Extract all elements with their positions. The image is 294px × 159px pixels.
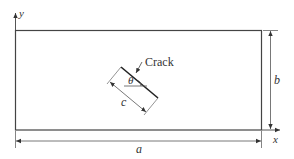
y-axis: y bbox=[16, 7, 25, 30]
dimension-a: a bbox=[16, 131, 262, 156]
y-axis-label: y bbox=[18, 7, 24, 19]
dimension-a-label: a bbox=[136, 142, 142, 156]
diagram-canvas: y x a b Crack θ c bbox=[0, 0, 294, 159]
x-axis: x bbox=[262, 130, 280, 145]
plate-rectangle bbox=[16, 31, 262, 131]
dimension-c-label: c bbox=[121, 95, 127, 109]
crack: Crack θ c bbox=[107, 55, 174, 115]
theta-label: θ bbox=[128, 74, 134, 86]
crack-line bbox=[121, 67, 158, 98]
dimension-b-label: b bbox=[274, 73, 280, 87]
dimension-c bbox=[110, 82, 146, 112]
crack-label: Crack bbox=[145, 55, 174, 69]
x-axis-label: x bbox=[272, 133, 278, 145]
dimension-b: b bbox=[263, 31, 280, 130]
